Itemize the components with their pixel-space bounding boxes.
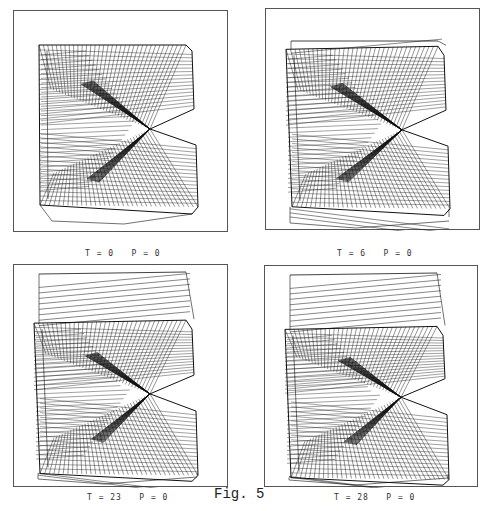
caption-t28: T = 28 P = 0 xyxy=(334,493,415,502)
caption-t6: T = 6 P = 0 xyxy=(337,249,413,258)
panel-t23 xyxy=(13,264,228,487)
panel-t28 xyxy=(264,265,478,487)
caption-t23: T = 23 P = 0 xyxy=(87,493,168,502)
mesh-plot xyxy=(266,9,481,231)
figure-label: Fig. 5 xyxy=(214,486,264,502)
caption-t0: T = 0 P = 0 xyxy=(85,249,161,258)
mesh-plot xyxy=(14,11,229,233)
mesh-plot xyxy=(14,265,229,488)
panel-t6 xyxy=(265,8,480,230)
mesh-plot xyxy=(265,266,479,488)
panel-t0 xyxy=(13,10,228,232)
